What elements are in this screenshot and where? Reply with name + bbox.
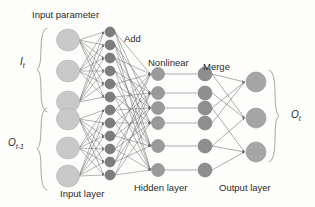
node-input-layer [56, 60, 79, 82]
hidden-layer-label: Hidden layer [134, 183, 187, 193]
node-nonlinear-column [152, 164, 165, 177]
edge-merge-to-output [212, 152, 245, 170]
edge-add-to-nonlinear [115, 58, 150, 146]
input-layer-label: Input layer [60, 189, 104, 199]
node-merge-column [198, 86, 212, 100]
edge-input-to-add [79, 148, 104, 175]
edge-input-to-add [79, 148, 104, 149]
edge-merge-to-output [212, 146, 245, 152]
edge-input-to-add [79, 149, 104, 176]
brace-It [37, 28, 47, 112]
node-add-column [105, 118, 115, 128]
edge-merge-to-output [212, 118, 245, 146]
edge-add-to-nonlinear [115, 108, 150, 136]
add-label: Add [124, 34, 141, 44]
node-merge-column [198, 163, 212, 177]
neural-network-diagram: Input parameter Add Nonlinear Merge Inpu… [0, 0, 315, 207]
output-label: Ot [291, 110, 301, 122]
node-add-column [105, 53, 115, 63]
input-current-subscript: t [23, 62, 25, 69]
nonlinear-label: Nonlinear [148, 58, 189, 68]
node-output-layer [246, 72, 266, 92]
node-add-column [105, 79, 115, 89]
input-previous-subscript: t-1 [16, 143, 24, 150]
node-input-layer [56, 108, 79, 130]
node-add-column [105, 157, 115, 167]
output-subscript: t [299, 115, 301, 122]
edge-merge-to-output [212, 82, 245, 123]
node-output-layer [246, 142, 266, 162]
node-add-column [105, 131, 115, 141]
input-previous-label: Ot-1 [8, 138, 24, 150]
node-add-column [105, 27, 115, 37]
node-output-layer [246, 108, 266, 128]
merge-label: Merge [203, 62, 230, 72]
node-add-column [105, 66, 115, 76]
output-symbol: O [291, 109, 299, 120]
input-parameter-label: Input parameter [32, 10, 99, 20]
node-input-layer [56, 137, 79, 159]
edge-input-to-add [79, 148, 104, 162]
input-previous-symbol: O [8, 137, 16, 148]
node-add-column [105, 170, 115, 180]
edge-input-to-add [79, 32, 104, 71]
brace-Ot-1 [37, 108, 47, 190]
edge-add-to-nonlinear [115, 170, 150, 175]
edge-input-to-add [79, 162, 104, 176]
brace-Ot [269, 70, 279, 162]
edge-merge-to-output [212, 82, 245, 108]
input-current-label: It [20, 57, 25, 69]
edge-add-to-nonlinear [115, 32, 150, 146]
node-merge-column [198, 116, 212, 130]
node-nonlinear-column [152, 87, 165, 100]
node-nonlinear-column [152, 68, 165, 81]
network-graphic [0, 0, 315, 207]
node-merge-column [198, 139, 212, 153]
node-add-column [105, 105, 115, 115]
edge-input-to-add [79, 110, 104, 119]
node-nonlinear-column [152, 117, 165, 130]
node-nonlinear-column [152, 140, 165, 153]
edge-input-to-add [79, 32, 104, 40]
node-nonlinear-column [152, 102, 165, 115]
output-layer-label: Output layer [219, 183, 271, 193]
node-input-layer [56, 165, 79, 187]
node-add-column [105, 144, 115, 154]
edge-add-to-nonlinear [115, 45, 150, 123]
edge-input-to-add [79, 175, 104, 176]
node-merge-column [198, 101, 212, 115]
node-input-layer [56, 29, 79, 51]
edge-input-to-add [79, 123, 104, 176]
node-add-column [105, 92, 115, 102]
node-add-column [105, 40, 115, 50]
edge-merge-to-output [212, 108, 245, 152]
